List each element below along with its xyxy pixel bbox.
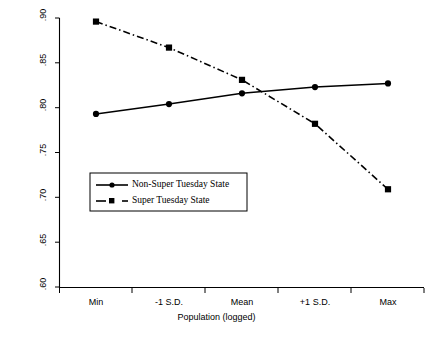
- plot-area: [0, 0, 433, 337]
- legend-item-non-super-tuesday-label: Non-Super Tuesday State: [132, 179, 229, 189]
- x-tick-label-p1sd: +1 S.D.: [300, 297, 330, 307]
- legend-circle-marker: [109, 182, 114, 187]
- x-tick-label-min: Min: [89, 297, 104, 307]
- data-point-circle: [166, 101, 172, 107]
- data-point-circle: [312, 84, 318, 90]
- series-line-super-tuesday: [96, 22, 388, 190]
- legend-item-super-tuesday-label: Super Tuesday State: [132, 195, 210, 205]
- series-markers-super-tuesday: [93, 18, 391, 192]
- data-point-square: [385, 186, 391, 192]
- data-point-square: [93, 18, 99, 24]
- x-axis-ticks: [60, 288, 425, 293]
- data-point-square: [239, 77, 245, 83]
- chart-container: Predicted Probability of Supporting Nati…: [0, 0, 433, 337]
- data-point-square: [312, 121, 318, 127]
- legend-square-marker: [109, 198, 114, 203]
- x-tick-label-max: Max: [379, 297, 396, 307]
- series-line-non-super-tuesday: [96, 83, 388, 113]
- x-axis-title: Population (logged): [0, 312, 433, 322]
- data-point-circle: [93, 111, 99, 117]
- data-point-circle: [385, 80, 391, 86]
- data-point-circle: [239, 90, 245, 96]
- y-axis-ticks: [55, 18, 60, 287]
- data-point-square: [166, 44, 172, 50]
- x-tick-label-mean: Mean: [231, 297, 254, 307]
- x-tick-label-m1sd: -1 S.D.: [155, 297, 183, 307]
